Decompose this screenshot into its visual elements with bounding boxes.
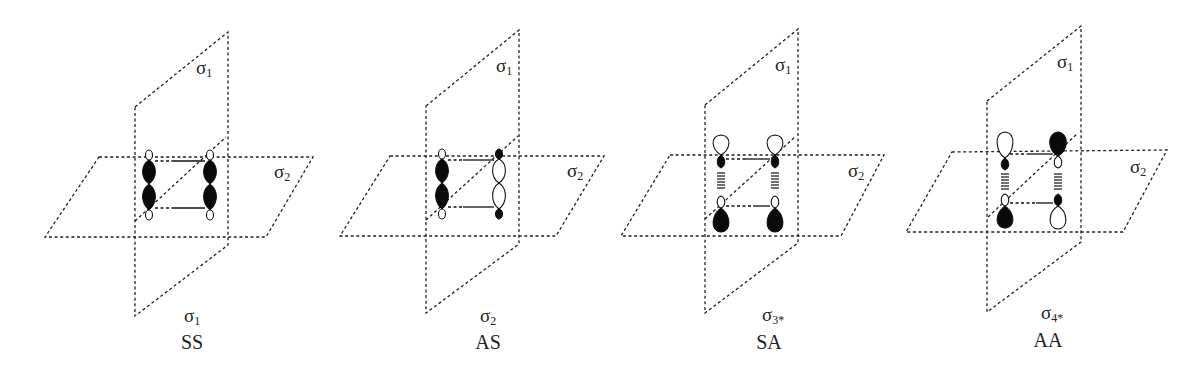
plane-label-sigma1: σ1	[496, 56, 512, 77]
panel-ss	[45, 32, 313, 316]
pi-bond-hatch	[1001, 174, 1009, 189]
mirror-plane-sigma2	[340, 156, 604, 236]
plane-label-sigma2: σ2	[848, 161, 864, 182]
plane-label-sigma2: σ2	[567, 161, 583, 182]
orbital-left	[436, 149, 449, 219]
mirror-plane-sigma2	[906, 150, 1167, 232]
pi-bond-hatch	[1054, 174, 1062, 189]
pi-bond-hatch	[717, 173, 725, 188]
symmetry-label: AS	[475, 332, 501, 352]
plane-label-sigma1: σ1	[196, 58, 212, 79]
orbital-right	[204, 150, 217, 220]
symmetry-label: AA	[1034, 330, 1063, 350]
orbital-label: σ3*	[762, 305, 784, 326]
plane-label-sigma1: σ1	[1057, 52, 1073, 73]
orbital-label: σ4*	[1041, 303, 1063, 324]
orbital-symmetry-diagram	[0, 0, 1203, 379]
panel-aa	[906, 26, 1167, 312]
orbital-right	[767, 135, 783, 232]
symmetry-label: SS	[181, 332, 203, 352]
orbital-right	[1050, 132, 1067, 229]
pi-bond-hatch	[771, 173, 779, 188]
plane-label-sigma2: σ2	[274, 162, 290, 183]
orbital-right	[493, 149, 506, 219]
orbital-label: σ1	[184, 306, 200, 327]
plane-label-sigma2: σ2	[1130, 157, 1146, 178]
symmetry-label: SA	[756, 332, 782, 352]
orbital-left	[997, 132, 1013, 228]
orbital-left	[143, 150, 156, 220]
panel-as	[340, 30, 604, 313]
mirror-plane-sigma2	[45, 157, 313, 237]
mirror-plane-sigma2	[621, 155, 884, 236]
panel-sa	[621, 29, 884, 313]
orbital-label: σ2	[480, 306, 496, 327]
plane-label-sigma1: σ1	[775, 55, 791, 76]
orbital-left	[713, 135, 729, 232]
